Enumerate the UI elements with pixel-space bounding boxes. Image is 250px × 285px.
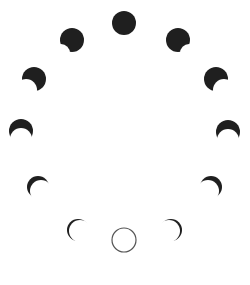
- thin-crescent-right-icon: [200, 176, 222, 198]
- gibbous-right-icon: [166, 28, 190, 52]
- new-moon-icon: [112, 228, 136, 252]
- crescent-right-icon: [216, 120, 240, 144]
- full-moon-icon: [112, 11, 136, 35]
- sliver-left-icon: [67, 219, 89, 241]
- half-right-icon: [204, 67, 228, 91]
- sliver-right-icon: [160, 219, 182, 241]
- crescent-left-icon: [9, 119, 33, 143]
- half-left-icon: [22, 67, 46, 91]
- thin-crescent-left-icon: [27, 176, 49, 198]
- moon-phases-ring: [0, 0, 250, 285]
- lunar-phase-diagram: [0, 0, 250, 285]
- gibbous-left-icon: [60, 28, 84, 52]
